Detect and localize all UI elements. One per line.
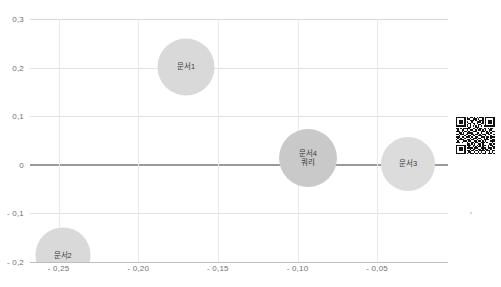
bubble-label: 문서2 <box>54 250 72 259</box>
y-axis-tick-label: - 0,1 <box>7 209 24 218</box>
chart-root: 0,30,20,10- 0,1- 0,2 문서1문서2문서4쿼리문서3 - 0,… <box>0 0 501 287</box>
bubble-label: 문서4 <box>299 149 317 158</box>
y-axis-tick-label: 0,3 <box>12 15 24 24</box>
bubble-point[interactable]: 문서3 <box>381 137 435 191</box>
bubble-point[interactable]: 문서4쿼리 <box>279 129 337 187</box>
x-axis-tick-label: - 0,15 <box>207 264 229 273</box>
bubble-point[interactable]: 문서1 <box>158 38 215 95</box>
x-axis-tick-label: - 0,20 <box>127 264 149 273</box>
bubble-label: 문서1 <box>177 62 195 71</box>
x-axis-tick-label: - 0,05 <box>366 264 388 273</box>
bubble-label: 쿼리 <box>301 158 315 167</box>
bubble-layer: 문서1문서2문서4쿼리문서3 <box>30 19 448 262</box>
y-axis-tick-label: 0 <box>19 160 24 169</box>
y-axis-labels: 0,30,20,10- 0,1- 0,2 <box>0 19 27 262</box>
x-axis-labels: - 0,25- 0,20- 0,15- 0,10- 0,05 <box>30 264 448 284</box>
y-axis-tick-label: - 0,2 <box>7 258 24 267</box>
x-axis-tick-label: - 0,25 <box>48 264 70 273</box>
qr-code[interactable] <box>456 117 496 157</box>
axis-bottom-line <box>30 262 448 263</box>
y-axis-tick-label: 0,2 <box>12 63 24 72</box>
y-axis-tick-label: 0,1 <box>12 112 24 121</box>
x-axis-tick-label: - 0,10 <box>287 264 309 273</box>
stray-speck <box>470 212 472 214</box>
bubble-label: 문서3 <box>399 159 417 168</box>
bubble-point[interactable]: 문서2 <box>35 227 90 262</box>
